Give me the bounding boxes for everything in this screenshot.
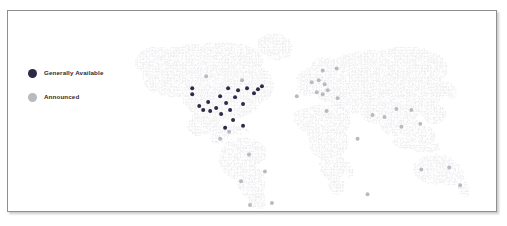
map-data-point[interactable]: [227, 130, 231, 134]
map-data-point[interactable]: [214, 106, 218, 110]
map-data-point[interactable]: [256, 87, 260, 91]
map-data-point[interactable]: [409, 108, 413, 112]
map-data-point[interactable]: [208, 109, 212, 113]
map-data-point[interactable]: [419, 167, 423, 171]
map-data-point[interactable]: [241, 124, 245, 128]
map-data-point[interactable]: [197, 104, 201, 108]
map-data-point[interactable]: [245, 86, 249, 90]
map-data-point[interactable]: [226, 86, 230, 90]
map-data-point[interactable]: [394, 107, 398, 111]
map-data-point[interactable]: [325, 109, 329, 113]
map-data-point[interactable]: [326, 88, 330, 92]
map-data-point[interactable]: [204, 74, 208, 78]
map-card: Generally Available Announced: [7, 10, 497, 212]
map-data-point[interactable]: [252, 91, 256, 95]
map-data-point[interactable]: [418, 122, 422, 126]
map-data-point[interactable]: [239, 179, 243, 183]
map-data-point[interactable]: [382, 115, 386, 119]
map-data-point[interactable]: [260, 84, 264, 88]
map-data-point[interactable]: [190, 92, 194, 96]
map-data-point[interactable]: [315, 90, 319, 94]
map-data-point[interactable]: [206, 100, 210, 104]
map-data-point[interactable]: [295, 94, 299, 98]
map-data-point[interactable]: [233, 95, 237, 99]
map-data-point[interactable]: [321, 92, 325, 96]
point-series-generally-available: [190, 84, 264, 130]
map-data-point[interactable]: [241, 102, 245, 106]
map-data-point[interactable]: [190, 86, 194, 90]
legend-item-announced[interactable]: Announced: [28, 89, 103, 105]
map-data-point[interactable]: [218, 137, 222, 141]
map-data-point[interactable]: [219, 112, 223, 116]
map-data-point[interactable]: [447, 165, 451, 169]
map-data-point[interactable]: [356, 137, 360, 141]
map-data-point[interactable]: [323, 82, 327, 86]
map-data-point[interactable]: [270, 201, 274, 205]
map-data-point[interactable]: [248, 203, 252, 207]
map-data-point[interactable]: [317, 78, 321, 82]
map-data-point[interactable]: [310, 80, 314, 84]
map-data-point[interactable]: [371, 113, 375, 117]
map-data-point[interactable]: [223, 126, 227, 130]
map-data-point[interactable]: [236, 88, 240, 92]
filled-circle-icon: [28, 69, 37, 78]
legend-item-label: Announced: [44, 94, 79, 100]
map-legend: Generally Available Announced: [28, 65, 103, 113]
map-data-point[interactable]: [263, 169, 267, 173]
map-data-point[interactable]: [224, 101, 228, 105]
map-data-point[interactable]: [218, 94, 222, 98]
map-data-point[interactable]: [231, 118, 235, 122]
map-data-point[interactable]: [458, 183, 462, 187]
map-data-point[interactable]: [321, 68, 325, 72]
point-series-announced: [204, 66, 462, 207]
map-data-point[interactable]: [336, 96, 340, 100]
map-data-point[interactable]: [247, 153, 251, 157]
map-data-point[interactable]: [228, 108, 232, 112]
filled-circle-icon: [28, 93, 37, 102]
map-data-point[interactable]: [240, 78, 244, 82]
map-data-point[interactable]: [366, 192, 370, 196]
legend-item-generally-available[interactable]: Generally Available: [28, 65, 103, 81]
map-data-point[interactable]: [399, 125, 403, 129]
legend-item-label: Generally Available: [44, 70, 103, 76]
map-data-point[interactable]: [335, 66, 339, 70]
map-data-point[interactable]: [201, 108, 205, 112]
